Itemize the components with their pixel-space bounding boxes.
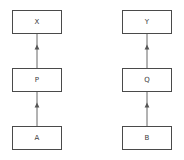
node-b[interactable]: B [122,126,172,150]
node-p-label: P [35,77,39,84]
node-y[interactable]: Y [122,10,172,34]
node-q-label: Q [144,77,150,84]
node-x-label: X [35,19,40,26]
edge-a-to-p [35,92,40,126]
node-a[interactable]: A [12,126,62,150]
node-x[interactable]: X [12,10,62,34]
edge-b-to-q [145,92,150,126]
edge-p-to-x [35,34,40,68]
node-q[interactable]: Q [122,68,172,92]
node-a-label: A [35,135,40,142]
node-b-label: B [144,135,149,142]
node-y-label: Y [145,19,149,26]
edge-q-to-y [145,34,150,68]
diagram-canvas: X P A Y Q B [0,0,184,160]
node-p[interactable]: P [12,68,62,92]
